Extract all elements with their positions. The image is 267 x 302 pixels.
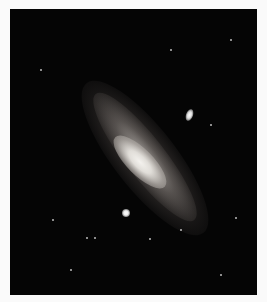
star: [86, 237, 88, 239]
star: [180, 229, 182, 231]
star: [170, 49, 172, 51]
star: [94, 237, 96, 239]
star: [230, 39, 232, 41]
star: [210, 124, 212, 126]
star: [235, 217, 237, 219]
satellite-galaxy-upper: [184, 108, 195, 122]
galaxy-photo: [10, 9, 257, 295]
star: [70, 269, 72, 271]
star: [149, 238, 151, 240]
star: [52, 219, 54, 221]
star: [220, 274, 222, 276]
satellite-galaxy-lower: [122, 209, 130, 217]
star: [40, 69, 42, 71]
